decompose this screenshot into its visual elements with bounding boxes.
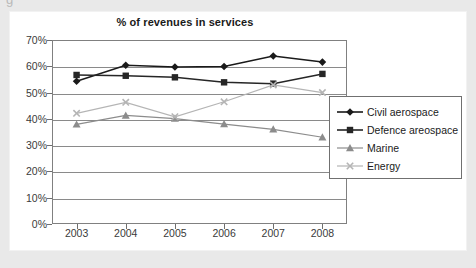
x-axis-tick-mark bbox=[126, 224, 127, 229]
series-line bbox=[77, 56, 323, 81]
y-axis-tick-label: 60% bbox=[11, 60, 47, 72]
data-point-marker bbox=[269, 52, 277, 60]
data-point-marker bbox=[319, 71, 325, 77]
y-axis-tick-label: 50% bbox=[11, 87, 47, 99]
data-point-marker bbox=[123, 73, 129, 79]
y-axis-tick-mark bbox=[47, 224, 52, 225]
y-axis-tick-label: 70% bbox=[11, 34, 47, 46]
y-axis-tick-label: 0% bbox=[11, 218, 47, 230]
data-point-marker bbox=[73, 72, 79, 78]
series-energy bbox=[73, 82, 325, 120]
x-axis-tick-mark bbox=[273, 224, 274, 229]
data-point-marker bbox=[73, 77, 81, 85]
data-point-marker bbox=[221, 99, 227, 105]
series-line bbox=[77, 74, 323, 84]
legend-item-label: Marine bbox=[367, 142, 399, 154]
page-text-fragment: g bbox=[6, 0, 13, 7]
data-point-marker bbox=[220, 63, 228, 71]
series-layer bbox=[52, 40, 347, 224]
y-axis-tick-label: 40% bbox=[11, 113, 47, 125]
legend-item-marine[interactable]: Marine bbox=[330, 138, 461, 158]
legend-marker-icon bbox=[336, 123, 364, 137]
y-axis-tick-label: 30% bbox=[11, 139, 47, 151]
x-axis-tick-mark bbox=[77, 224, 78, 229]
x-axis-tick-mark bbox=[175, 224, 176, 229]
y-axis-tick-label: 20% bbox=[11, 165, 47, 177]
data-point-marker bbox=[171, 63, 179, 71]
x-axis-tick-mark bbox=[224, 224, 225, 229]
legend-item-label: Defence areospace bbox=[367, 124, 458, 136]
series-line bbox=[77, 85, 323, 117]
series-defence-areospace bbox=[73, 71, 325, 87]
data-point-marker bbox=[122, 61, 130, 69]
chart-legend: Civil aerospaceDefence areospaceMarineEn… bbox=[329, 96, 462, 179]
legend-item-label: Civil aerospace bbox=[367, 106, 439, 118]
line-chart: % of revenues in services 0%10%20%30%40%… bbox=[10, 12, 466, 250]
y-axis-tick-label: 10% bbox=[11, 192, 47, 204]
legend-marker-icon bbox=[336, 141, 364, 155]
figure-card: % of revenues in services 0%10%20%30%40%… bbox=[10, 12, 466, 250]
series-line bbox=[77, 115, 323, 137]
x-axis-tick-mark bbox=[322, 224, 323, 229]
data-point-marker bbox=[319, 58, 327, 66]
legend-item-civil-aerospace[interactable]: Civil aerospace bbox=[330, 102, 461, 122]
legend-item-energy[interactable]: Energy bbox=[330, 156, 461, 176]
data-point-marker bbox=[172, 74, 178, 80]
legend-item-label: Energy bbox=[367, 160, 400, 172]
legend-marker-icon bbox=[336, 159, 364, 173]
legend-item-defence-areospace[interactable]: Defence areospace bbox=[330, 120, 461, 140]
legend-marker-icon bbox=[336, 105, 364, 119]
chart-title: % of revenues in services bbox=[10, 16, 360, 28]
series-marine bbox=[73, 111, 327, 140]
data-point-marker bbox=[221, 79, 227, 85]
